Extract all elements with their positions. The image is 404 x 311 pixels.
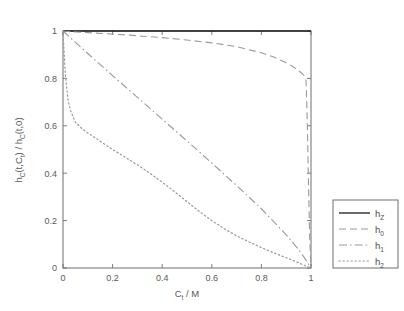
- y-tick-label: 0.2: [44, 216, 57, 226]
- y-tick-label: 0.6: [44, 121, 57, 131]
- chart-svg: 00.20.40.60.81 00.20.40.60.81 Ct / M hC(…: [0, 0, 404, 311]
- figure-container: 00.20.40.60.81 00.20.40.60.81 Ct / M hC(…: [0, 0, 404, 311]
- x-tick-label: 0: [60, 273, 65, 283]
- x-tick-label: 0.2: [106, 273, 119, 283]
- y-axis-title-p2: (t,C: [13, 157, 24, 172]
- legend: hZh0h1h2: [333, 200, 398, 269]
- y-axis-title-p3: ) / h: [13, 139, 24, 155]
- x-axis-title-tail: / M: [183, 288, 199, 299]
- x-tick-label: 0.4: [156, 273, 169, 283]
- x-tick-label: 1: [308, 273, 313, 283]
- y-tick-label: 0.4: [44, 169, 57, 179]
- x-tick-label: 0.6: [206, 273, 219, 283]
- x-tick-label: 0.8: [255, 273, 268, 283]
- legend-box: [333, 200, 398, 268]
- y-tick-label: 1: [52, 26, 57, 36]
- y-axis-title-p4: (t,0): [13, 117, 24, 134]
- y-tick-label: 0.8: [44, 74, 57, 84]
- y-tick-label: 0: [52, 263, 57, 273]
